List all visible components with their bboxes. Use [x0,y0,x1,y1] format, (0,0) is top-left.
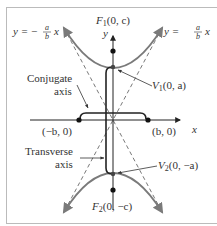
vertex-top-label: V1(0, a) [152,79,186,93]
asymptote-right-den: b [196,32,200,41]
conjugate-axis-label-line1: Conjugate [27,72,72,84]
vertex-top-point [111,65,115,69]
focus-top-point [110,48,115,53]
asymptote-right-label: y = [163,25,179,37]
asymptote-right-var: x [204,25,210,37]
transverse-axis-label-line1: Transverse [25,145,73,157]
co-vertex-right-label: (b, 0) [152,125,176,138]
transverse-axis-label-line2: axis [55,158,73,170]
hyperbola-diagram: F1(0, c) y y = − a b x y = a b x V1(0, a… [0,0,217,226]
conjugate-axis-label-line2: axis [54,85,72,97]
focus-top-label: F1(0, c) [95,14,130,28]
x-axis-label: x [191,123,197,135]
vertex-bottom-point [111,172,115,176]
focus-bottom-label: F2(0, −c) [91,200,132,214]
co-vertex-left-point [76,117,81,122]
co-vertex-right-point [145,117,150,122]
co-vertex-left-label: (−b, 0) [42,125,72,138]
asymptote-left-den: b [45,32,49,41]
asymptote-left-num: a [45,23,49,32]
vertex-bottom-pointer [118,166,157,173]
asymptote-left-var: x [53,25,59,37]
y-axis-label: y [102,27,108,39]
asymptote-right-num: a [196,23,200,32]
conjugate-axis-pointer [77,85,88,108]
vertex-top-pointer [118,70,152,86]
vertex-bottom-label: V2(0, −a) [158,159,198,173]
asymptote-left-label: y = − [12,25,38,37]
focus-bottom-point [110,187,115,192]
